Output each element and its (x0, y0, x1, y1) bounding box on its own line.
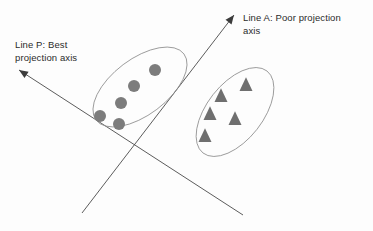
axis-line-p-stroke (19, 70, 243, 215)
data-point-circle (149, 64, 161, 76)
axis-line-a-arrowhead (226, 15, 234, 24)
label-line-p: Line P: Best projection axis (15, 39, 125, 64)
data-point-circle (94, 110, 106, 122)
axis-line-p-arrowhead (19, 70, 29, 78)
diagram-figure: Line P: Best projection axis Line A: Poo… (0, 0, 373, 231)
axis-line-p (19, 70, 243, 215)
data-points-triangles (199, 77, 253, 142)
data-point-triangle (204, 106, 217, 120)
data-point-triangle (240, 77, 253, 91)
data-point-triangle (199, 128, 212, 142)
data-points-circles (94, 64, 161, 130)
data-point-triangle (229, 111, 242, 125)
label-line-a: Line A: Poor projection axis (243, 12, 371, 37)
data-point-circle (128, 80, 140, 92)
data-point-circle (115, 97, 127, 109)
data-point-circle (113, 118, 125, 130)
